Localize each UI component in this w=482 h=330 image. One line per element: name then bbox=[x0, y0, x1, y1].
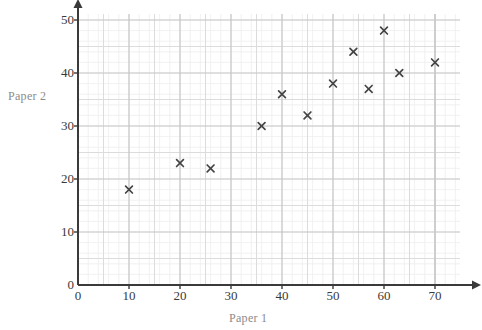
y-tick-label: 40 bbox=[52, 65, 74, 81]
y-tick-label: 50 bbox=[52, 12, 74, 28]
x-tick-label: 40 bbox=[270, 288, 294, 304]
axis-lines bbox=[74, 0, 482, 290]
x-tick-label: 10 bbox=[117, 288, 141, 304]
data-point bbox=[365, 86, 372, 93]
y-axis-title: Paper 2 bbox=[8, 89, 46, 104]
gridlines-minor bbox=[78, 9, 466, 285]
y-tick-label: 20 bbox=[52, 171, 74, 187]
y-tick-label: 30 bbox=[52, 118, 74, 134]
cropped-text-bottom bbox=[0, 322, 482, 330]
x-tick-label: 60 bbox=[372, 288, 396, 304]
scatter-plot-figure: Paper 2 Paper 1 010203040506070 01020304… bbox=[0, 0, 482, 330]
y-tick-label: 0 bbox=[52, 277, 74, 293]
gridlines-major bbox=[78, 14, 460, 285]
x-tick-label: 70 bbox=[423, 288, 447, 304]
x-tick-label: 50 bbox=[321, 288, 345, 304]
x-tick-label: 30 bbox=[219, 288, 243, 304]
y-tick-label: 10 bbox=[52, 224, 74, 240]
tick-marks bbox=[74, 20, 435, 289]
x-tick-label: 20 bbox=[168, 288, 192, 304]
